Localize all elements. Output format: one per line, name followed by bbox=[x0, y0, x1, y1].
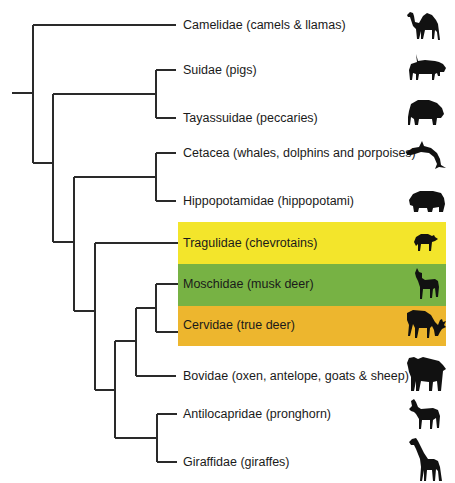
pronghorn-icon bbox=[408, 398, 444, 432]
warthog-icon bbox=[407, 52, 447, 84]
leaf-label-cetacea: Cetacea (whales, dolphins and porpoises) bbox=[183, 145, 416, 161]
leaf-label-hippopotamidae: Hippopotamidae (hippopotami) bbox=[183, 193, 354, 209]
leaf-label-tragulidae: Tragulidae (chevrotains) bbox=[183, 235, 317, 251]
hippo-icon bbox=[407, 188, 447, 216]
leaf-label-camelidae: Camelidae (camels & llamas) bbox=[183, 17, 346, 33]
leaf-label-bovidae: Bovidae (oxen, antelope, goats & sheep) bbox=[183, 368, 409, 384]
leaf-label-giraffidae: Giraffidae (giraffes) bbox=[183, 454, 290, 470]
leaf-label-suidae: Suidae (pigs) bbox=[183, 62, 257, 78]
dolphin-icon bbox=[405, 135, 447, 171]
giraffe-icon bbox=[408, 437, 444, 483]
camel-icon bbox=[405, 8, 445, 42]
chevrotain-icon bbox=[413, 232, 439, 254]
peccary-icon bbox=[405, 97, 445, 129]
leaf-label-antilocapridae: Antilocapridae (pronghorn) bbox=[183, 406, 331, 422]
leaf-label-moschidae: Moschidae (musk deer) bbox=[183, 276, 314, 292]
deer-icon bbox=[405, 308, 447, 342]
leaf-label-cervidae: Cervidae (true deer) bbox=[183, 317, 295, 333]
buffalo-icon bbox=[405, 355, 447, 397]
leaf-label-tayassuidae: Tayassuidae (peccaries) bbox=[183, 110, 318, 126]
musk-deer-icon bbox=[413, 267, 441, 301]
